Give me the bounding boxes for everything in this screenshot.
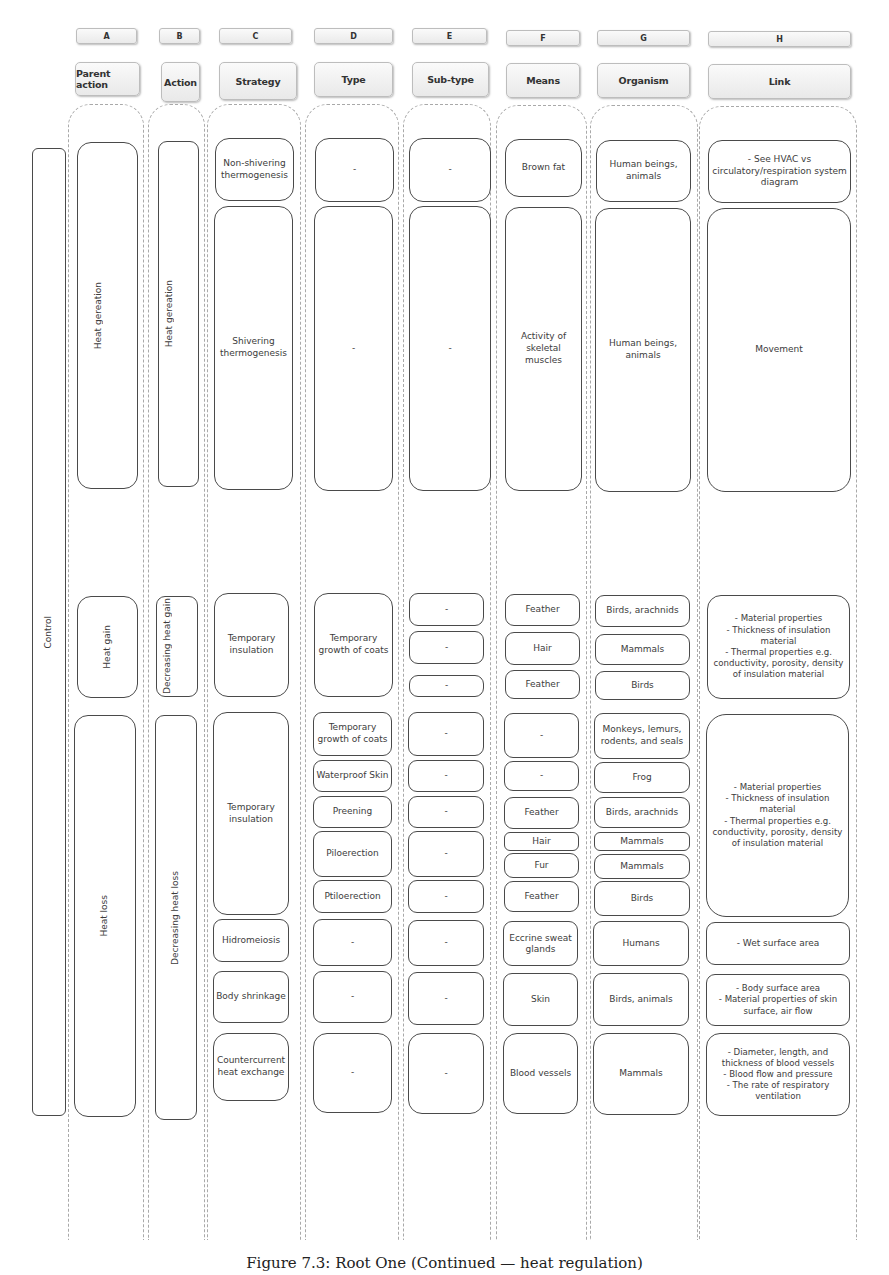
- strategy-body-shrinkage: Body shrinkage: [213, 971, 289, 1023]
- column-title-action: Action: [161, 62, 200, 102]
- subtype-cell: -: [409, 675, 484, 697]
- means-feather: Feather: [504, 881, 579, 912]
- strategy-hidromeiosis: Hidromeiosis: [213, 919, 289, 962]
- column-title-strategy: Strategy: [219, 62, 297, 100]
- strategy-countercurrent-heat-exchange: Countercurrent heat exchange: [213, 1033, 289, 1101]
- column-title-organism: Organism: [597, 63, 690, 98]
- type-ptiloerection: Ptiloerection: [313, 880, 392, 913]
- type-cell: -: [313, 971, 392, 1023]
- type-preening: Preening: [313, 796, 392, 828]
- means-hair: Hair: [504, 832, 579, 851]
- type-cell: -: [314, 206, 393, 491]
- column-letter-g: G: [597, 30, 690, 46]
- means-hair: Hair: [505, 632, 580, 665]
- strategy-temporary-insulation-gain: Temporary insulation: [214, 593, 289, 697]
- parent-action-label: Heat gain: [102, 625, 114, 669]
- means-fur: Fur: [504, 853, 579, 878]
- organism-cell: Humans: [593, 921, 689, 966]
- organism-cell: Mammals: [594, 832, 690, 851]
- subtype-cell: -: [409, 593, 484, 626]
- subtype-cell: -: [408, 972, 484, 1025]
- action-label: Decreasing heat loss: [170, 871, 182, 965]
- subtype-cell: -: [408, 831, 484, 877]
- subtype-cell: -: [408, 920, 484, 966]
- action-label: Decreasing heat gain: [162, 598, 192, 694]
- subtype-cell: -: [408, 1033, 484, 1114]
- type-piloerection: Piloerection: [313, 831, 392, 877]
- action-label: Heat gereation: [164, 280, 194, 347]
- control-label: Control: [43, 616, 55, 649]
- column-title-sub-type: Sub-type: [412, 62, 489, 97]
- parent-action-label: Heat loss: [99, 895, 111, 937]
- strategy-non-shivering: Non-shivering thermogenesis: [215, 138, 294, 201]
- means-feather: Feather: [505, 670, 580, 699]
- link-movement: Movement: [707, 208, 851, 492]
- control-box: Control: [32, 148, 66, 1116]
- means-cell: -: [504, 713, 579, 758]
- subtype-cell: -: [409, 631, 484, 664]
- column-title-parent-action: Parent action: [75, 62, 140, 96]
- means-cell: -: [504, 761, 579, 791]
- organism-cell: Birds, animals: [593, 973, 689, 1026]
- organism-cell: Monkeys, lemurs, rodents, and seals: [594, 713, 690, 759]
- column-letter-e: E: [412, 28, 487, 44]
- type-temporary-growth-of-coats: Temporary growth of coats: [313, 712, 392, 756]
- subtype-cell: -: [408, 796, 484, 828]
- parent-action-heat-generation: Heat gereation: [77, 142, 138, 489]
- subtype-cell: -: [408, 712, 484, 756]
- link-body-surface: - Body surface area - Material propertie…: [706, 974, 850, 1026]
- means-brown-fat: Brown fat: [505, 139, 582, 197]
- type-waterproof-skin: Waterproof Skin: [313, 760, 392, 792]
- column-title-means: Means: [506, 63, 580, 98]
- subtype-cell: -: [409, 206, 491, 491]
- means-skin: Skin: [503, 973, 578, 1026]
- organism-cell: Birds, arachnids: [595, 595, 690, 627]
- action-decreasing-heat-loss: Decreasing heat loss: [155, 715, 197, 1120]
- column-title-link: Link: [708, 64, 851, 99]
- organism-cell: Human beings, animals: [596, 140, 691, 202]
- organism-cell: Frog: [594, 762, 690, 793]
- column-letter-b: B: [159, 28, 200, 44]
- organism-cell: Mammals: [594, 854, 690, 879]
- strategy-shivering: Shivering thermogenesis: [214, 206, 293, 490]
- column-letter-h: H: [708, 31, 851, 47]
- organism-cell: Birds, arachnids: [594, 797, 690, 828]
- strategy-temporary-insulation-loss: Temporary insulation: [213, 712, 289, 915]
- figure-caption: Figure 7.3: Root One (Continued — heat r…: [0, 1254, 889, 1275]
- column-letter-f: F: [506, 30, 580, 46]
- type-cell: -: [315, 138, 394, 202]
- link-blood-vessels: - Diameter, length, and thickness of blo…: [706, 1033, 850, 1116]
- subtype-cell: -: [409, 138, 491, 202]
- column-title-type: Type: [314, 62, 393, 97]
- organism-cell: Birds: [595, 671, 690, 700]
- link-wet-surface-area: - Wet surface area: [706, 922, 850, 965]
- means-eccrine-sweat-glands: Eccrine sweat glands: [503, 921, 578, 966]
- organism-cell: Mammals: [595, 634, 690, 665]
- action-heat-generation: Heat gereation: [158, 141, 199, 487]
- subtype-cell: -: [408, 880, 484, 913]
- link-insulation-properties: - Material properties - Thickness of ins…: [706, 714, 849, 917]
- means-feather: Feather: [504, 797, 579, 829]
- type-temporary-growth-of-coats: Temporary growth of coats: [314, 593, 393, 697]
- column-letter-a: A: [76, 28, 137, 44]
- parent-action-label: Heat gereation: [93, 282, 123, 349]
- parent-action-heat-gain: Heat gain: [77, 596, 138, 698]
- means-skeletal-muscles: Activity of skeletal muscles: [505, 207, 582, 491]
- means-feather: Feather: [505, 594, 580, 626]
- means-blood-vessels: Blood vessels: [503, 1033, 578, 1114]
- organism-cell: Human beings, animals: [595, 208, 691, 492]
- column-letter-d: D: [314, 28, 393, 44]
- type-cell: -: [313, 919, 392, 966]
- organism-cell: Mammals: [593, 1033, 689, 1115]
- link-hvac-diagram: - See HVAC vs circulatory/respiration sy…: [708, 140, 851, 203]
- action-decreasing-heat-gain: Decreasing heat gain: [156, 596, 198, 697]
- subtype-cell: -: [408, 760, 484, 792]
- link-insulation-properties: - Material properties - Thickness of ins…: [707, 595, 850, 699]
- parent-action-heat-loss: Heat loss: [74, 715, 136, 1117]
- column-letter-c: C: [219, 28, 292, 44]
- type-cell: -: [313, 1033, 392, 1113]
- organism-cell: Birds: [594, 881, 690, 916]
